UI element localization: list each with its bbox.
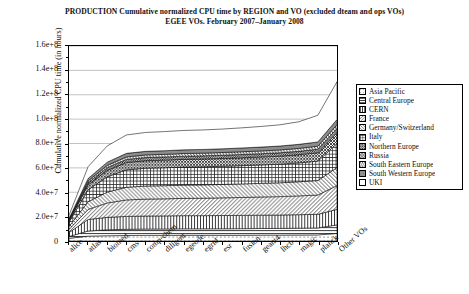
legend-swatch-icon bbox=[359, 124, 366, 131]
y-tick-label: 1.2e+8 bbox=[14, 89, 58, 98]
legend-item[interactable]: UKI bbox=[359, 178, 460, 187]
legend-swatch-icon bbox=[359, 170, 366, 177]
legend-label: UKI bbox=[369, 178, 382, 187]
y-tick-label: 2.0e+7 bbox=[14, 212, 58, 221]
legend-label: CERN bbox=[369, 105, 389, 114]
legend-label: Asia Pacific bbox=[369, 87, 405, 96]
legend-swatch-icon bbox=[359, 152, 366, 159]
legend-item[interactable]: Russia bbox=[359, 151, 460, 160]
plot-area bbox=[68, 45, 338, 242]
legend-item[interactable]: Italy bbox=[359, 132, 460, 141]
legend-item[interactable]: Northern Europe bbox=[359, 142, 460, 151]
y-tick-label: 1.6e+8 bbox=[14, 40, 58, 49]
y-axis-label: Cumulative normalized CPU time (in hours… bbox=[54, 0, 63, 206]
legend-swatch-icon bbox=[359, 161, 366, 168]
legend-item[interactable]: Central Europe bbox=[359, 96, 460, 105]
legend-swatch-icon bbox=[359, 134, 366, 141]
legend: Asia PacificCentral EuropeCERNFranceGerm… bbox=[356, 84, 463, 190]
legend-swatch-icon bbox=[359, 106, 366, 113]
legend-label: Northern Europe bbox=[369, 142, 419, 151]
legend-item[interactable]: South Western Europe bbox=[359, 169, 460, 178]
area-bands bbox=[69, 82, 337, 241]
legend-label: France bbox=[369, 114, 389, 123]
legend-item[interactable]: CERN bbox=[359, 105, 460, 114]
legend-swatch-icon bbox=[359, 115, 366, 122]
y-tick-label: 1.0e+8 bbox=[14, 114, 58, 123]
y-tick-label: 6.0e+7 bbox=[14, 163, 58, 172]
legend-label: Italy bbox=[369, 132, 383, 141]
legend-item[interactable]: France bbox=[359, 114, 460, 123]
y-tick-label: 8.0e+7 bbox=[14, 138, 58, 147]
chart-title-line1: PRODUCTION Cumulative normalized CPU tim… bbox=[0, 7, 469, 17]
legend-label: Germany/Switzerland bbox=[369, 123, 434, 132]
legend-label: South Eastern Europe bbox=[369, 160, 433, 169]
legend-swatch-icon bbox=[359, 88, 366, 95]
legend-item[interactable]: Asia Pacific bbox=[359, 87, 460, 96]
legend-label: Russia bbox=[369, 151, 389, 160]
legend-swatch-icon bbox=[359, 179, 366, 186]
legend-swatch-icon bbox=[359, 143, 366, 150]
legend-item[interactable]: South Eastern Europe bbox=[359, 160, 460, 169]
legend-label: Central Europe bbox=[369, 96, 414, 105]
legend-label: South Western Europe bbox=[369, 169, 435, 178]
chart-title: PRODUCTION Cumulative normalized CPU tim… bbox=[0, 7, 469, 26]
x-tick-label: Other VOs bbox=[337, 224, 369, 254]
legend-item[interactable]: Germany/Switzerland bbox=[359, 123, 460, 132]
y-tick-label: 1.4e+8 bbox=[14, 64, 58, 73]
legend-swatch-icon bbox=[359, 97, 366, 104]
stacked-area-chart bbox=[69, 46, 337, 241]
y-tick-label: 4.0e+7 bbox=[14, 188, 58, 197]
y-tick-label: 0 bbox=[14, 237, 58, 246]
chart-title-line2: EGEE VOs. February 2007–January 2008 bbox=[0, 17, 469, 27]
